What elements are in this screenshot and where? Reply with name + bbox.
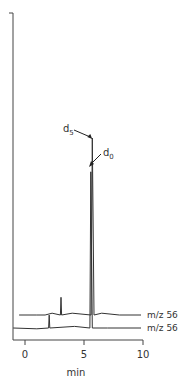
x-tick-label-5: 5 xyxy=(81,349,87,360)
annotation-d0-label: d0 xyxy=(103,147,114,161)
x-tick-label-10: 10 xyxy=(137,349,150,360)
y-axis xyxy=(9,13,13,340)
annotation-d5-arrow xyxy=(74,130,90,137)
annotation-d5-arrowhead xyxy=(87,134,92,139)
trace-mz-560 xyxy=(19,138,141,315)
x-axis-label: min xyxy=(67,367,86,378)
traces xyxy=(13,138,141,329)
series-label-mz-560: m/z 560 xyxy=(147,310,178,320)
series-label-mz-565: m/z 565 xyxy=(147,323,178,333)
x-tick-label-0: 0 xyxy=(22,349,28,360)
legend-labels: m/z 560 m/z 565 xyxy=(147,310,178,333)
trace-mz-565 xyxy=(13,172,141,329)
chromatogram: 0 5 10 min m/z 560 m/z 565 d5 d0 xyxy=(0,0,178,385)
annotations: d5 d0 xyxy=(63,123,114,167)
x-axis: 0 5 10 min xyxy=(13,340,149,378)
annotation-d5: d5 xyxy=(63,123,92,139)
annotation-d5-label: d5 xyxy=(63,123,74,137)
